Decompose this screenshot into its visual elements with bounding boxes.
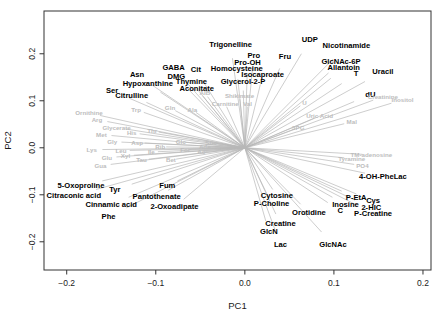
loading-label: T	[354, 69, 359, 78]
loading-label: Lys	[86, 146, 97, 153]
loading-label: PO4	[356, 162, 369, 169]
x-tick-label: −0.2	[58, 278, 75, 288]
pca-biplot-svg: PC1 PC2 −0.2−0.10.00.10.2−0.2−0.10.00.10…	[0, 0, 442, 323]
loading-label: Inositol	[391, 96, 413, 103]
loading-label: Asn	[130, 70, 145, 79]
loading-label: Uracil	[372, 67, 393, 76]
loading-label: Gln	[165, 104, 176, 111]
y-axis-title: PC2	[2, 131, 13, 149]
loading-label: Thr	[147, 127, 158, 134]
loading-label: Fum	[159, 181, 175, 190]
loading-label: 4-OH-PheLac	[359, 172, 407, 181]
loading-label: Trigonelline	[209, 40, 252, 49]
loading-arrow	[245, 82, 365, 148]
x-tick-label: 0.0	[239, 278, 251, 288]
x-tick-label: −0.1	[147, 278, 164, 288]
y-tick-label: −0.2	[27, 233, 37, 250]
loading-label: Hypoxanthine	[123, 79, 173, 88]
loading-label: Pantothenate	[133, 192, 181, 201]
x-axis-title: PC1	[228, 300, 246, 311]
loading-label: For	[180, 146, 191, 153]
loading-label: Citraconic acid	[47, 191, 102, 200]
y-tick-label: −0.1	[27, 186, 37, 203]
loading-label: GlcN	[260, 227, 278, 236]
loading-label: Tau	[136, 156, 147, 163]
loading-label: U	[302, 99, 307, 106]
loading-label: Orotidine	[292, 208, 326, 217]
loading-label: Val	[243, 100, 252, 107]
loading-label: GlcNAc	[319, 240, 346, 249]
y-tick-label: 0.2	[27, 48, 37, 60]
y-tick-label: 0.0	[27, 142, 37, 154]
loading-label: Tyramine	[338, 155, 366, 162]
loading-arrow	[245, 118, 315, 148]
loading-label: GABA	[162, 63, 185, 72]
loading-arrow	[245, 148, 363, 155]
loading-label: Lac	[274, 240, 287, 249]
loading-label: Ade	[199, 143, 211, 150]
loading-label: Glc	[176, 138, 187, 145]
loading-label: Met	[96, 131, 107, 138]
y-tick-label: 0.1	[27, 95, 37, 107]
loading-label: His	[127, 129, 137, 136]
loading-label: Arg	[92, 116, 103, 123]
loading-label: Nicotinamide	[323, 41, 371, 50]
loading-label: Ile	[148, 148, 155, 155]
loading-label: Trp	[131, 106, 141, 113]
loading-label: Asp	[131, 139, 143, 146]
x-tick-label: 0.2	[417, 278, 429, 288]
loading-label: 5-Oxoproline	[58, 181, 105, 190]
loading-label: Cinnamic acid	[86, 200, 138, 209]
loading-label: Citrulline	[115, 91, 148, 100]
loading-label: Ala	[187, 106, 197, 113]
loading-label: Tyr	[109, 185, 120, 194]
loading-label: C	[337, 206, 343, 215]
loading-label: Glu	[102, 154, 113, 161]
loading-label: P-Creatine	[354, 209, 392, 218]
loading-label: 3PG	[292, 124, 305, 131]
loading-label: Xyl	[121, 152, 131, 159]
loading-label: P-EtA	[346, 193, 367, 202]
loading-label: Shikimate	[225, 92, 255, 99]
loading-label: Fru	[279, 52, 292, 61]
loading-arrow	[245, 129, 295, 148]
loading-label: AIB	[199, 89, 210, 96]
loading-label: 2-Oxoadipate	[150, 202, 198, 211]
loading-label: Glycerol-2-P	[221, 77, 266, 86]
loading-label: Bet	[166, 156, 176, 163]
loading-label: Uric Acid	[306, 112, 333, 119]
loading-label: Cit	[191, 65, 202, 74]
loading-label: Phe	[102, 212, 116, 221]
loading-label: Mal	[347, 118, 358, 125]
loading-label: Gua	[95, 162, 108, 169]
loading-label: Carnitine	[212, 100, 239, 107]
loading-label: P-Choline	[254, 199, 289, 208]
loading-label: UDP	[302, 35, 318, 44]
loading-label: Gly	[107, 138, 118, 145]
pca-biplot-figure: PC1 PC2 −0.2−0.10.00.10.2−0.2−0.10.00.10…	[0, 0, 442, 323]
x-tick-label: 0.1	[328, 278, 340, 288]
loading-label: Rib	[155, 143, 165, 150]
